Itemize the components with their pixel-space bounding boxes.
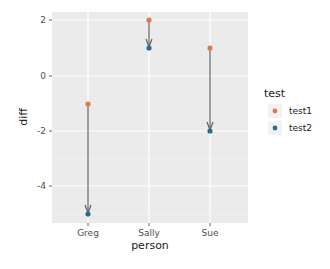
- legend: test test1 test2: [264, 87, 312, 135]
- legend-key-test2: [273, 126, 278, 131]
- point-greg-test2: [85, 211, 90, 216]
- x-tick-label: Greg: [77, 228, 99, 238]
- y-axis-title: diff: [17, 108, 30, 126]
- y-tick-label: -4: [37, 181, 46, 191]
- x-axis: Greg Sally Sue person: [77, 223, 219, 252]
- point-greg-test1: [85, 101, 90, 106]
- point-sally-test1: [146, 17, 151, 22]
- x-axis-title: person: [131, 239, 169, 252]
- y-tick-label: 0: [40, 71, 46, 81]
- legend-key-test1: [273, 109, 278, 114]
- legend-label-test2: test2: [289, 123, 312, 133]
- y-tick-label: 2: [40, 15, 46, 25]
- y-tick-label: -2: [37, 126, 46, 136]
- legend-title: test: [264, 87, 286, 100]
- chart: 2 0 -2 -4 diff Greg Sally Sue person te: [0, 0, 330, 269]
- point-sue-test1: [207, 45, 212, 50]
- legend-label-test1: test1: [289, 106, 312, 116]
- x-tick-label: Sally: [138, 228, 160, 238]
- y-axis: 2 0 -2 -4 diff: [17, 15, 52, 191]
- point-sue-test2: [207, 128, 212, 133]
- point-sally-test2: [146, 45, 151, 50]
- x-tick-label: Sue: [202, 228, 219, 238]
